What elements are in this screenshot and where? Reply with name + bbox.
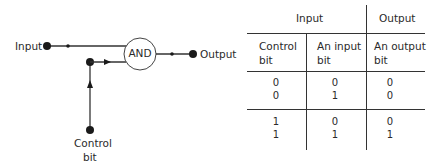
cell-g2r2-output: 1 xyxy=(380,129,400,141)
col-header-control-line2: bit xyxy=(259,54,273,67)
table-header-divider xyxy=(247,33,425,34)
col-header-input-line2: bit xyxy=(317,54,331,67)
cell-g2r1-input: 0 xyxy=(325,116,345,128)
table-group-divider xyxy=(247,109,425,110)
cell-g2r2-control: 1 xyxy=(266,129,286,141)
col-header-output-line1: An output xyxy=(374,40,426,53)
table-column-header-divider xyxy=(247,71,425,72)
cell-g1r1-control: 0 xyxy=(266,77,286,89)
cell-g1r1-input: 0 xyxy=(325,77,345,89)
col-header-control-line1: Control xyxy=(259,40,297,53)
cell-g2r2-input: 1 xyxy=(325,129,345,141)
group-header-input: Input xyxy=(296,12,323,25)
truth-table: Input Output Control bit An input bit An… xyxy=(0,0,439,168)
cell-g2r1-control: 1 xyxy=(266,116,286,128)
cell-g1r2-control: 0 xyxy=(266,90,286,102)
cell-g1r2-output: 0 xyxy=(380,90,400,102)
cell-g1r1-output: 0 xyxy=(380,77,400,89)
table-col-divider-2 xyxy=(366,5,367,150)
group-header-output: Output xyxy=(379,12,415,25)
col-header-output-line2: bit xyxy=(374,54,388,67)
table-col-divider-1 xyxy=(306,33,307,150)
col-header-input-line1: An input xyxy=(317,40,361,53)
cell-g2r1-output: 0 xyxy=(380,116,400,128)
cell-g1r2-input: 1 xyxy=(325,90,345,102)
